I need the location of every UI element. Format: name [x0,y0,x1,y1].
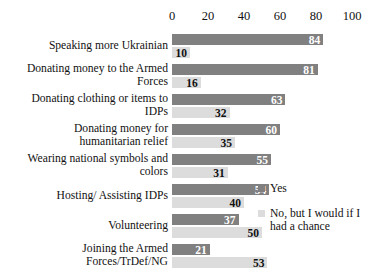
x-tick-0: 0 [169,8,175,24]
bar-yes: 60 [172,124,280,135]
category-label-line: Speaking more Ukrainian [0,40,168,53]
bar-value-label: 31 [213,167,225,178]
x-axis-tick-labels: 020406080100 [0,8,376,24]
bar-no: 35 [172,137,235,148]
category-label-line: Forces [0,76,168,89]
bar-no: 16 [172,77,201,88]
bar-no: 50 [172,227,262,238]
chart-legend: YesNo, but I would if I had a chance [258,182,376,245]
bar-no: 53 [172,257,267,268]
category-label: Donating clothing or items toIDPs [0,93,168,118]
category-label-line: IDPs [0,106,168,119]
bar-value-label: 32 [215,107,227,118]
bar-value-label: 60 [266,124,278,135]
bar-yes: 54 [172,184,269,195]
x-tick-100: 100 [343,8,362,24]
bar-value-label: 55 [257,154,269,165]
bar-group: Joining the ArmedForces/TrDef/NG2153 [0,244,376,268]
bar-value-label: 10 [176,47,188,58]
bar-value-label: 63 [271,94,283,105]
bar-group: Speaking more Ukrainian8410 [0,34,376,58]
category-label-line: colors [0,166,168,179]
category-label: Wearing national symbols andcolors [0,153,168,178]
bar-value-label: 37 [224,214,236,225]
bar-group: Donating clothing or items toIDPs6332 [0,94,376,118]
legend-item[interactable]: No, but I would if I had a chance [258,207,376,233]
legend-label: Yes [270,182,287,195]
bar-value-label: 35 [221,137,233,148]
x-tick-60: 60 [274,8,287,24]
bar-value-label: 21 [195,244,207,255]
chart-title [0,0,376,2]
legend-swatch-icon [258,185,265,192]
category-label: Speaking more Ukrainian [0,40,168,53]
bar-no: 10 [172,47,190,58]
x-tick-80: 80 [310,8,323,24]
legend-swatch-icon [258,210,265,217]
x-tick-20: 20 [202,8,215,24]
category-label: Volunteering [0,220,168,233]
category-label-line: Donating clothing or items to [0,93,168,106]
bar-value-label: 53 [253,257,265,268]
category-label: Hosting/ Assisting IDPs [0,190,168,203]
bar-group: Wearing national symbols andcolors5531 [0,154,376,178]
bar-group: Donating money to the ArmedForces8116 [0,64,376,88]
bar-value-label: 84 [309,34,321,45]
bar-yes: 55 [172,154,271,165]
category-label-line: Hosting/ Assisting IDPs [0,190,168,203]
bar-group: Donating money forhumanitarian relief603… [0,124,376,148]
bar-yes: 84 [172,34,323,45]
bar-value-label: 16 [186,77,198,88]
category-label-line: humanitarian relief [0,136,168,149]
bar-no: 40 [172,197,244,208]
category-label-line: Volunteering [0,220,168,233]
bar-yes: 21 [172,244,210,255]
category-label: Donating money to the ArmedForces [0,63,168,88]
bar-value-label: 81 [303,64,315,75]
x-tick-40: 40 [238,8,251,24]
category-label-line: Forces/TrDef/NG [0,256,168,269]
bar-chart: 020406080100 Speaking more Ukrainian8410… [0,0,376,277]
category-label: Donating money forhumanitarian relief [0,123,168,148]
bar-no: 31 [172,167,228,178]
bar-yes: 63 [172,94,285,105]
bar-yes: 81 [172,64,318,75]
bar-no: 32 [172,107,230,118]
legend-label: No, but I would if I had a chance [270,207,376,233]
category-label: Joining the ArmedForces/TrDef/NG [0,243,168,268]
bar-yes: 37 [172,214,239,225]
bar-value-label: 40 [230,197,242,208]
legend-item[interactable]: Yes [258,182,376,195]
